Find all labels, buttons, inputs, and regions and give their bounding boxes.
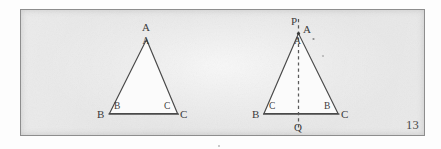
- stray-speck-upper: [312, 38, 314, 40]
- right-bottom-right-outer-label-C: C: [341, 109, 348, 120]
- right-bottom-left-inner-label-C: C: [269, 102, 275, 112]
- scan-speck-bottom: [218, 145, 220, 147]
- right-apex-inner-label-A: A: [294, 37, 301, 47]
- right-bottom-left-outer-label-B: B: [252, 109, 259, 120]
- page-number: 13: [406, 118, 419, 133]
- right-apex-outer-label-A: A: [303, 24, 311, 35]
- stray-speck-mid: [322, 55, 324, 57]
- right-triangle-apex-point: [297, 32, 300, 35]
- scanned-figure-page: A A B B C C P A A B C B C Q 13: [0, 0, 441, 149]
- right-bottom-right-inner-label-B: B: [324, 102, 330, 112]
- right-triangle-drawing: [21, 10, 425, 136]
- right-median-bottom-label-Q: Q: [294, 122, 302, 133]
- figure-frame: A A B B C C P A A B C B C Q 13: [20, 9, 425, 136]
- right-median-top-label-P: P: [291, 16, 297, 27]
